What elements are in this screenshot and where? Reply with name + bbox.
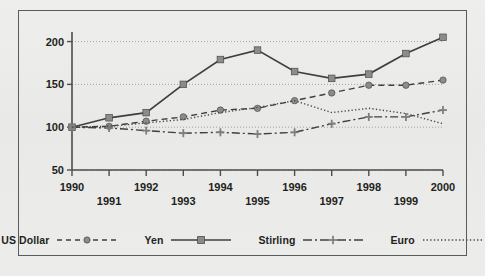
data-point-stirling [365, 113, 373, 121]
legend-swatch-us-dollar-dashed-circle-icon [56, 234, 118, 246]
legend-label-us-dollar: US Dollar [1, 234, 49, 246]
data-point-stirling [254, 130, 262, 138]
x-tick-label: 1999 [394, 195, 418, 207]
legend-item-euro[interactable]: Euro [390, 234, 483, 246]
y-tick-label: 50 [52, 164, 64, 176]
y-tick-label: 200 [46, 36, 64, 48]
data-point-yen [328, 75, 335, 82]
data-point-us-dollar [440, 77, 446, 83]
x-tick-label: 1992 [134, 181, 158, 193]
x-tick-label: 1994 [208, 181, 233, 193]
data-point-us-dollar [366, 82, 372, 88]
legend-item-us-dollar[interactable]: US Dollar [1, 234, 118, 246]
chart-legend: US Dollar Yen Stirling [18, 228, 467, 252]
data-point-yen [143, 109, 150, 116]
data-point-yen [440, 34, 447, 41]
x-tick-label: 1995 [245, 195, 269, 207]
data-point-stirling [439, 106, 447, 114]
data-point-yen [366, 71, 373, 78]
x-tick-label: 1993 [171, 195, 195, 207]
legend-item-stirling[interactable]: Stirling [258, 234, 364, 246]
data-point-stirling [328, 120, 336, 128]
series-line-us-dollar [72, 80, 443, 127]
data-point-yen [291, 68, 298, 75]
data-point-stirling [291, 128, 299, 136]
x-tick-label: 1990 [60, 181, 84, 193]
legend-label-yen: Yen [144, 234, 163, 246]
data-point-stirling [142, 127, 150, 135]
legend-label-stirling: Stirling [258, 234, 295, 246]
chart-figure: 5010015020019901991199219931994199519961… [0, 0, 485, 276]
data-point-yen [403, 50, 410, 57]
data-point-yen [106, 114, 113, 121]
x-tick-label: 2000 [431, 181, 455, 193]
data-point-us-dollar [329, 90, 335, 96]
y-tick-label: 100 [46, 121, 64, 133]
legend-label-euro: Euro [390, 234, 414, 246]
x-tick-label: 1998 [357, 181, 381, 193]
data-point-stirling [402, 113, 410, 121]
x-tick-label: 1997 [319, 195, 343, 207]
data-point-us-dollar [403, 82, 409, 88]
legend-swatch-stirling-dashdot-plus-icon [302, 234, 364, 246]
x-tick-label: 1996 [282, 181, 306, 193]
legend-swatch-yen-solid-square-icon [170, 234, 232, 246]
data-point-yen [217, 56, 224, 63]
data-point-stirling [179, 129, 187, 137]
legend-swatch-euro-dotted-icon [422, 234, 484, 246]
x-tick-label: 1991 [97, 195, 121, 207]
data-point-yen [254, 47, 261, 54]
data-point-us-dollar [254, 105, 260, 111]
data-point-stirling [216, 128, 224, 136]
data-point-yen [180, 81, 187, 88]
legend-item-yen[interactable]: Yen [144, 234, 232, 246]
y-tick-label: 150 [46, 78, 64, 90]
